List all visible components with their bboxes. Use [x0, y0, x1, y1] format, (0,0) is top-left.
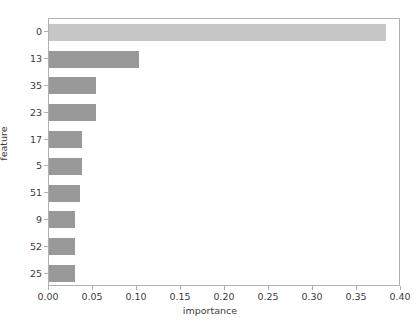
x-axis-tick — [400, 286, 401, 290]
x-axis-tick-label: 0.20 — [213, 291, 234, 302]
bar — [49, 104, 96, 121]
y-axis-tick — [44, 112, 48, 113]
y-axis-tick — [44, 31, 48, 32]
bar — [49, 51, 139, 68]
bar-row — [49, 153, 82, 180]
x-axis-tick — [312, 286, 313, 290]
bar-row — [49, 180, 80, 207]
bar — [49, 131, 82, 148]
x-axis-tick-label: 0.15 — [169, 291, 190, 302]
y-axis-tick-label: 51 — [30, 187, 42, 198]
x-axis-tick-label: 0.35 — [345, 291, 366, 302]
x-axis-tick-label: 0.05 — [81, 291, 102, 302]
bar — [49, 158, 82, 175]
y-axis-tick — [44, 192, 48, 193]
y-axis-tick — [44, 273, 48, 274]
bar-row — [49, 73, 96, 100]
bar — [49, 185, 80, 202]
y-axis-tick-label: 35 — [30, 80, 42, 91]
plot-area — [48, 18, 400, 286]
bar-row — [49, 260, 75, 287]
bar-row — [49, 207, 75, 234]
bar-row — [49, 99, 96, 126]
x-axis-tick-label: 0.00 — [37, 291, 58, 302]
x-axis-tick — [268, 286, 269, 290]
figure-canvas: 01335231755195225 0.000.050.100.150.200.… — [0, 0, 420, 328]
x-axis-tick — [180, 286, 181, 290]
bar-row — [49, 233, 75, 260]
bar-row — [49, 19, 386, 46]
bar — [49, 211, 75, 228]
y-axis-tick-label: 52 — [30, 240, 42, 251]
y-axis-tick-label: 25 — [30, 267, 42, 278]
x-axis-tick-label: 0.40 — [389, 291, 410, 302]
y-axis-tick-label: 9 — [36, 214, 42, 225]
x-axis-tick — [356, 286, 357, 290]
y-axis-tick — [44, 139, 48, 140]
bar — [49, 77, 96, 94]
y-axis-tick — [44, 165, 48, 166]
bar — [49, 265, 75, 282]
y-axis-tick-label: 0 — [36, 26, 42, 37]
x-axis-tick-label: 0.30 — [301, 291, 322, 302]
bar — [49, 24, 386, 41]
y-axis-tick-label: 17 — [30, 133, 42, 144]
y-axis-tick-label: 5 — [36, 160, 42, 171]
x-axis-tick-label: 0.10 — [125, 291, 146, 302]
y-axis-tick — [44, 219, 48, 220]
y-axis-tick — [44, 85, 48, 86]
x-axis-tick-label: 0.25 — [257, 291, 278, 302]
y-axis-tick — [44, 246, 48, 247]
bar-row — [49, 46, 139, 73]
x-axis-tick — [136, 286, 137, 290]
bar — [49, 238, 75, 255]
x-axis-tick — [92, 286, 93, 290]
x-axis-tick — [48, 286, 49, 290]
y-axis-label: feature — [0, 126, 9, 160]
x-axis-label: importance — [0, 305, 420, 316]
y-axis-tick-label: 23 — [30, 106, 42, 117]
y-axis-tick-label: 13 — [30, 53, 42, 64]
y-axis-tick — [44, 58, 48, 59]
x-axis-tick — [224, 286, 225, 290]
bar-row — [49, 126, 82, 153]
